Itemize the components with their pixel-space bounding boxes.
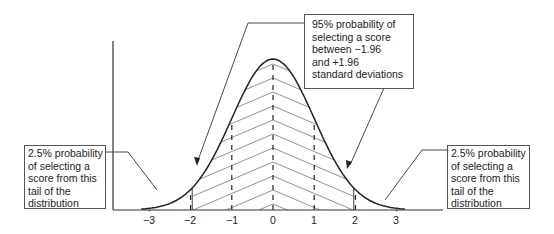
callout-line: of selecting a xyxy=(451,160,526,173)
tick-label-1: 1 xyxy=(311,214,317,226)
callout-line: 2.5% probability xyxy=(28,147,102,160)
tick-label-neg3: −3 xyxy=(143,214,155,226)
callout-left-tail: 2.5% probability of selecting a score fr… xyxy=(24,145,106,209)
tick-label-neg2: −2 xyxy=(184,214,196,226)
tick-label-neg1: −1 xyxy=(226,214,238,226)
leader-center-right xyxy=(350,88,384,165)
callout-line: selecting a score xyxy=(312,31,406,44)
callout-line: score from this xyxy=(28,172,102,185)
callout-line: distribution xyxy=(451,197,526,210)
leader-center-left xyxy=(197,23,304,163)
callout-line: tail of the xyxy=(451,185,526,198)
tick-label-2: 2 xyxy=(352,214,358,226)
leader-right xyxy=(385,150,447,200)
arrowhead-right xyxy=(346,160,352,169)
callout-line: standard deviations xyxy=(312,68,406,81)
callout-line: distribution xyxy=(28,197,102,210)
tick-label-3: 3 xyxy=(393,214,399,226)
callout-right-tail: 2.5% probability of selecting a score fr… xyxy=(447,145,530,209)
callout-line: of selecting a xyxy=(28,160,102,173)
tick-label-0: 0 xyxy=(270,214,276,226)
callout-line: score from this xyxy=(451,172,526,185)
callout-center-95-percent: 95% probability of selecting a score bet… xyxy=(304,14,414,89)
callout-line: between −1.96 xyxy=(312,43,406,56)
callout-line: 2.5% probability xyxy=(451,147,526,160)
callout-line: and +1.96 xyxy=(312,56,406,69)
callout-line: 95% probability of xyxy=(312,18,406,31)
arrowhead-left xyxy=(194,157,200,166)
callout-line: tail of the xyxy=(28,185,102,198)
